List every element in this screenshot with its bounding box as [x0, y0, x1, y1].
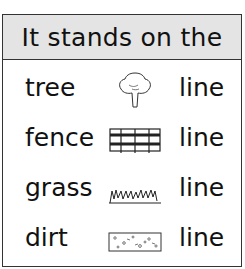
header-title: It stands on the — [3, 15, 241, 60]
fence-icon — [107, 119, 163, 163]
line-word: line — [179, 173, 224, 202]
line-word: line — [179, 73, 224, 102]
tree-icon — [107, 69, 163, 113]
word: grass — [25, 173, 93, 202]
row-fence: fence line — [3, 119, 241, 169]
line-word: line — [179, 123, 224, 152]
dirt-icon — [107, 219, 163, 263]
word: dirt — [25, 223, 68, 252]
line-word: line — [179, 223, 224, 252]
worksheet-card: It stands on the tree line fence line gr… — [2, 14, 242, 267]
row-tree: tree line — [3, 69, 241, 119]
word: fence — [25, 123, 94, 152]
word: tree — [25, 73, 75, 102]
grass-icon — [107, 169, 163, 213]
row-grass: grass line — [3, 169, 241, 219]
row-dirt: dirt line — [3, 219, 241, 269]
